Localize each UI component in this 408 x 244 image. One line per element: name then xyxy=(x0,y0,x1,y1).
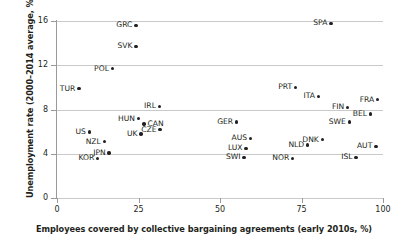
data-point-label-nzl: NZL xyxy=(86,138,101,146)
data-point-svk[interactable] xyxy=(134,45,137,48)
x-tick-label-75: 75 xyxy=(282,206,322,214)
data-point-label-ita: ITA xyxy=(303,93,314,101)
data-point-isl[interactable] xyxy=(354,156,357,159)
data-point-cze[interactable] xyxy=(158,128,161,131)
data-point-us[interactable] xyxy=(88,130,91,133)
data-point-ger[interactable] xyxy=(235,120,238,123)
data-point-tur[interactable] xyxy=(77,87,80,90)
data-point-label-cze: CZE xyxy=(141,126,156,134)
x-tick-label-0: 0 xyxy=(37,206,77,214)
data-point-label-grc: GRC xyxy=(116,22,132,30)
data-point-label-nld: NLD xyxy=(288,141,304,149)
data-point-swe[interactable] xyxy=(348,120,351,123)
x-tick-label-50: 50 xyxy=(200,206,240,214)
x-tick-50 xyxy=(220,198,221,203)
y-tick-12 xyxy=(51,65,57,66)
data-point-label-bel: BEL xyxy=(353,110,367,118)
data-point-label-fra: FRA xyxy=(360,96,375,104)
x-tick-label-25: 25 xyxy=(119,206,159,214)
y-tick-label-12: 12 xyxy=(20,61,48,69)
x-tick-75 xyxy=(302,198,303,203)
data-point-label-kor: KOR xyxy=(78,155,94,163)
data-point-jpn[interactable] xyxy=(107,151,110,154)
y-tick-label-16: 16 xyxy=(20,17,48,25)
data-point-label-svk: SVK xyxy=(117,43,132,51)
data-point-label-pol: POL xyxy=(94,65,109,73)
y-tick-label-4: 4 xyxy=(20,150,48,158)
data-point-grc[interactable] xyxy=(134,24,137,27)
data-point-label-swi: SWI xyxy=(226,154,241,162)
y-axis-title: Unemployment rate (2000–2014 average, %) xyxy=(25,0,35,198)
y-tick-16 xyxy=(51,21,57,22)
data-point-label-isl: ISL xyxy=(341,154,352,162)
y-tick-label-8: 8 xyxy=(20,106,48,114)
gridline-y-16 xyxy=(57,21,383,22)
data-point-label-dnk: DNK xyxy=(302,136,319,144)
x-tick-label-100: 100 xyxy=(363,206,403,214)
y-tick-8 xyxy=(51,110,57,111)
data-point-label-hun: HUN xyxy=(118,115,135,123)
data-point-label-jpn: JPN xyxy=(93,149,106,157)
data-point-label-spa: SPA xyxy=(313,19,327,27)
data-point-swi[interactable] xyxy=(242,156,245,159)
scatter-chart: Unemployment rate (2000–2014 average, %)… xyxy=(0,0,408,244)
data-point-label-fin: FIN xyxy=(332,104,344,112)
data-point-irl[interactable] xyxy=(158,105,161,108)
data-point-label-swe: SWE xyxy=(329,118,346,126)
x-tick-0 xyxy=(57,198,58,203)
x-tick-100 xyxy=(383,198,384,203)
data-point-label-uk: UK xyxy=(127,130,138,138)
data-point-label-irl: IRL xyxy=(144,103,156,111)
data-point-label-us: US xyxy=(75,128,85,136)
data-point-lux[interactable] xyxy=(244,147,247,150)
data-point-uk[interactable] xyxy=(139,132,142,135)
data-point-spa[interactable] xyxy=(329,22,332,25)
data-point-aut[interactable] xyxy=(374,145,377,148)
x-axis-title: Employees covered by collective bargaini… xyxy=(0,224,408,234)
x-tick-25 xyxy=(139,198,140,203)
data-point-label-prt: PRT xyxy=(278,84,292,92)
data-point-label-nor: NOR xyxy=(272,155,289,163)
y-tick-4 xyxy=(51,154,57,155)
data-point-label-aus: AUS xyxy=(232,135,248,143)
y-tick-label-0: 0 xyxy=(20,194,48,202)
data-point-label-tur: TUR xyxy=(60,85,75,93)
data-point-label-aut: AUT xyxy=(357,142,372,150)
data-point-label-lux: LUX xyxy=(228,145,243,153)
data-point-label-ger: GER xyxy=(217,118,233,126)
